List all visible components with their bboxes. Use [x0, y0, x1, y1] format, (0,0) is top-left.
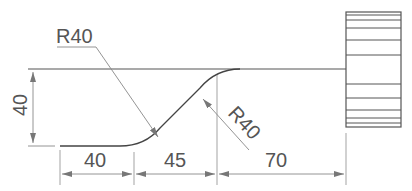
radius-leader-upper: R40	[56, 25, 158, 137]
dim-height-left: 40	[9, 72, 55, 146]
s-curve-profile	[60, 69, 240, 146]
knurled-part	[346, 12, 401, 127]
dim-label-70: 70	[265, 149, 287, 171]
drawing-svg: 40 40 45 70 R40 R40	[0, 0, 412, 191]
radius-label-upper: R40	[56, 25, 93, 47]
dim-label-40: 40	[84, 149, 106, 171]
radius-leader-lower: R40	[203, 99, 265, 150]
radius-label-lower: R40	[224, 102, 265, 144]
dim-label-45: 45	[164, 149, 186, 171]
dim-height-label: 40	[9, 94, 31, 116]
technical-drawing: 40 40 45 70 R40 R40	[0, 0, 412, 191]
